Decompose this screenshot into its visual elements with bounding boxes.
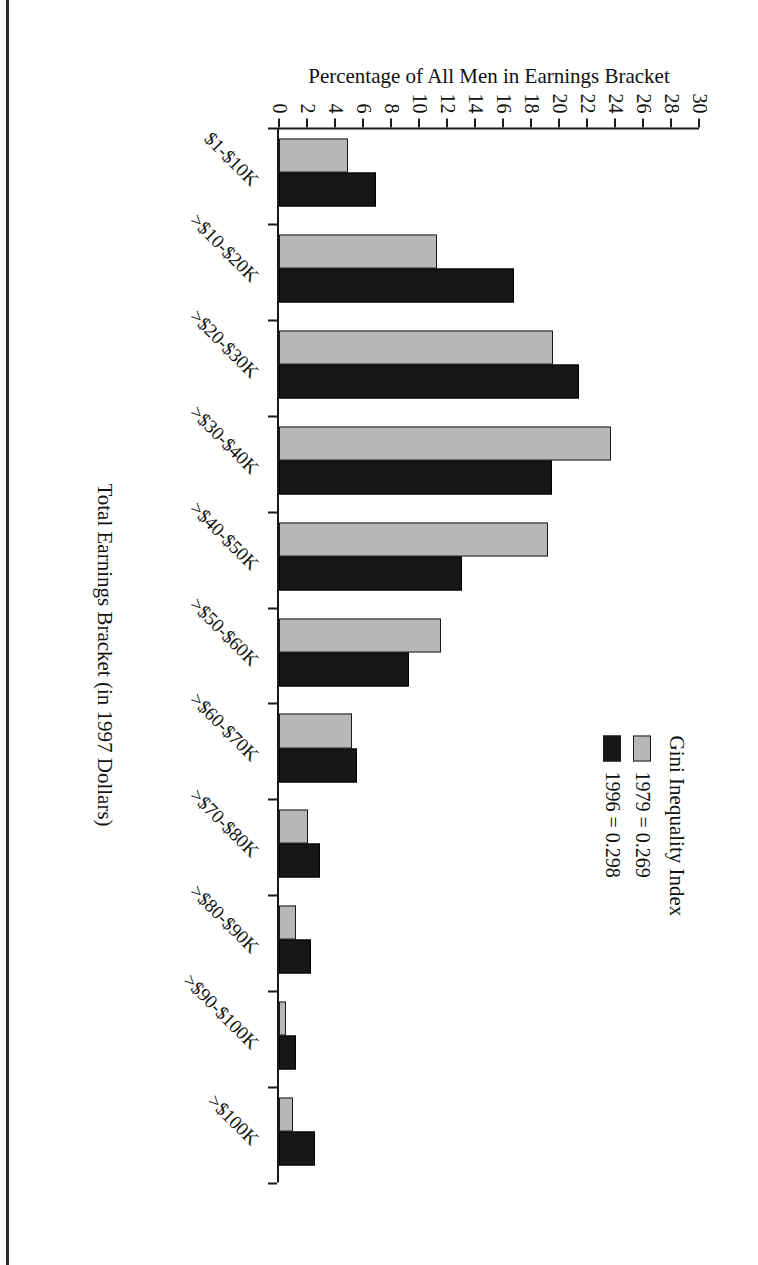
bar-1979 bbox=[279, 618, 441, 652]
bar-1996 bbox=[279, 939, 311, 973]
legend: Gini Inequality Index 1979 = 0.269 1996 … bbox=[594, 735, 689, 916]
legend-title: Gini Inequality Index bbox=[664, 735, 689, 916]
bar-1996 bbox=[279, 268, 514, 302]
value-axis-tick bbox=[558, 118, 560, 127]
bar-group bbox=[279, 607, 699, 703]
bar-1996 bbox=[279, 172, 376, 206]
bar-1996 bbox=[279, 556, 462, 590]
bar-1979 bbox=[279, 905, 296, 939]
value-axis-tick-label: 24 bbox=[606, 73, 626, 113]
figure-page: Percentage of All Men in Earnings Bracke… bbox=[0, 0, 758, 1265]
category-axis-tick bbox=[268, 1182, 277, 1184]
value-axis-tick-label: 16 bbox=[494, 73, 514, 113]
value-axis-tick-label: 14 bbox=[466, 73, 486, 113]
value-axis-tick-label: 28 bbox=[662, 73, 682, 113]
value-axis-tick-label: 18 bbox=[522, 73, 542, 113]
value-axis-tick-label: 8 bbox=[382, 73, 402, 113]
bar-1996 bbox=[279, 364, 579, 398]
category-axis-tick bbox=[268, 223, 277, 225]
value-axis-tick-label: 10 bbox=[410, 73, 430, 113]
value-axis-tick-label: 26 bbox=[634, 73, 654, 113]
value-axis-tick bbox=[446, 118, 448, 127]
value-axis-tick bbox=[418, 118, 420, 127]
category-axis-tick bbox=[268, 894, 277, 896]
category-axis-tick bbox=[268, 415, 277, 417]
category-axis-tick bbox=[268, 607, 277, 609]
value-axis-tick bbox=[306, 118, 308, 127]
value-axis-tick bbox=[642, 118, 644, 127]
value-axis-tick-label: 4 bbox=[326, 73, 346, 113]
bar-1996 bbox=[279, 460, 552, 494]
bar-group bbox=[279, 1086, 699, 1182]
bar-1996 bbox=[279, 748, 357, 782]
category-axis-tick bbox=[268, 127, 277, 129]
bar-group bbox=[279, 990, 699, 1086]
category-axis-tick bbox=[268, 798, 277, 800]
value-axis-tick-label: 22 bbox=[578, 73, 598, 113]
value-axis-tick bbox=[670, 118, 672, 127]
category-axis-title: Total Earnings Bracket (in 1997 Dollars) bbox=[92, 127, 117, 1182]
value-axis-tick bbox=[698, 118, 700, 127]
value-axis-tick bbox=[474, 118, 476, 127]
value-axis-tick-label: 30 bbox=[690, 73, 710, 113]
bar-group bbox=[279, 127, 699, 223]
bar-1996 bbox=[279, 843, 320, 877]
value-axis-tick-label: 20 bbox=[550, 73, 570, 113]
bar-1979 bbox=[279, 809, 308, 843]
value-axis-tick bbox=[334, 118, 336, 127]
category-axis-tick bbox=[268, 511, 277, 513]
bar-1996 bbox=[279, 652, 409, 686]
bar-1996 bbox=[279, 1035, 296, 1069]
bar-1979 bbox=[279, 1097, 293, 1131]
category-axis-tick bbox=[268, 1086, 277, 1088]
bar-1979 bbox=[279, 522, 548, 556]
bar-1979 bbox=[279, 713, 352, 747]
page-edge-rule bbox=[6, 0, 9, 1265]
bar-1979 bbox=[279, 138, 348, 172]
category-axis-tick bbox=[268, 990, 277, 992]
plot-area: 024681012141618202224262830 $1-$10K>$10-… bbox=[279, 127, 699, 1182]
value-axis-tick bbox=[362, 118, 364, 127]
value-axis-tick-label: 2 bbox=[298, 73, 318, 113]
category-axis-tick bbox=[268, 702, 277, 704]
value-axis-tick bbox=[278, 118, 280, 127]
legend-item-1979: 1979 = 0.269 bbox=[631, 735, 654, 916]
bar-group bbox=[279, 319, 699, 415]
value-axis-tick bbox=[390, 118, 392, 127]
value-axis-tick bbox=[502, 118, 504, 127]
bar-1979 bbox=[279, 234, 437, 268]
chart-stage: Percentage of All Men in Earnings Bracke… bbox=[29, 35, 729, 1230]
legend-item-1996: 1996 = 0.298 bbox=[601, 735, 624, 916]
value-axis-tick-label: 6 bbox=[354, 73, 374, 113]
bar-group bbox=[279, 415, 699, 511]
legend-swatch-1996 bbox=[604, 735, 622, 761]
legend-swatch-1979 bbox=[634, 735, 652, 761]
legend-label-1996: 1996 = 0.298 bbox=[601, 771, 624, 877]
value-axis-tick bbox=[586, 118, 588, 127]
value-axis-tick-label: 12 bbox=[438, 73, 458, 113]
bar-1979 bbox=[279, 330, 553, 364]
legend-label-1979: 1979 = 0.269 bbox=[631, 771, 654, 877]
bar-1979 bbox=[279, 1001, 286, 1035]
bar-group bbox=[279, 511, 699, 607]
value-axis-tick bbox=[530, 118, 532, 127]
value-axis-tick bbox=[614, 118, 616, 127]
value-axis-tick-label: 0 bbox=[270, 73, 290, 113]
bar-group bbox=[279, 223, 699, 319]
bar-1996 bbox=[279, 1131, 315, 1165]
category-axis-tick bbox=[268, 319, 277, 321]
bar-1979 bbox=[279, 426, 611, 460]
